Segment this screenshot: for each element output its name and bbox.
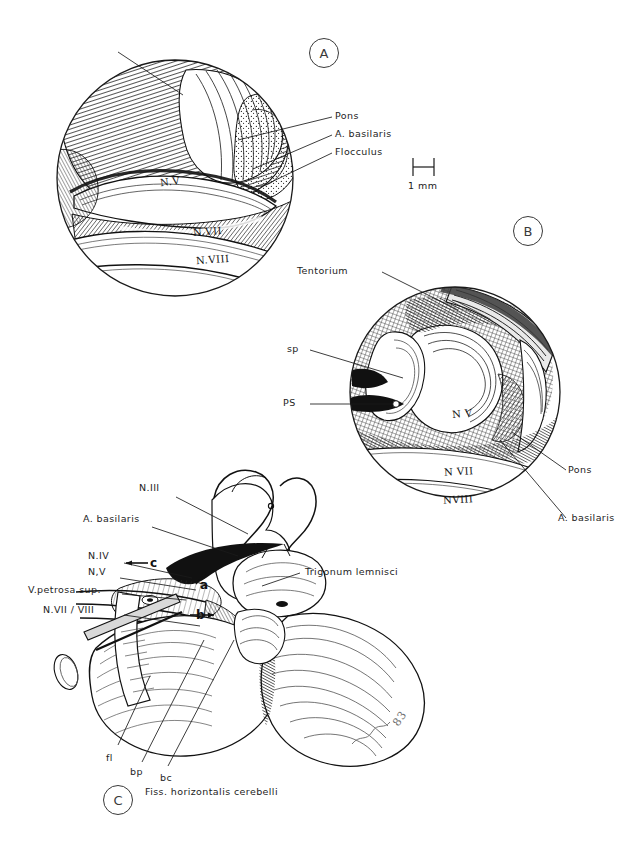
label-n3-c: N.III bbox=[139, 482, 160, 493]
panel-a-drawing bbox=[55, 58, 302, 334]
label-n4-c: N.IV bbox=[88, 550, 109, 561]
label-n8-b: NVIII bbox=[443, 493, 474, 506]
label-bc-c: bc bbox=[160, 772, 172, 783]
label-flocculus-a: Flocculus bbox=[335, 146, 383, 157]
label-a-basilaris-c: A. basilaris bbox=[83, 513, 140, 524]
label-n7-a: N.VII bbox=[193, 225, 223, 238]
arrow-label-a: a bbox=[200, 578, 209, 592]
arrow-label-b: b bbox=[196, 608, 205, 622]
label-bp-c: bp bbox=[130, 766, 143, 777]
label-tentorium-b: Tentorium bbox=[297, 265, 348, 276]
panel-b-drawing bbox=[348, 284, 566, 528]
panel-marker-c: C bbox=[103, 785, 133, 815]
label-fiss-horizontalis-cerebelli: Fiss. horizontalis cerebelli bbox=[145, 786, 278, 797]
label-trigonum-lemnisci: Trigonum lemnisci bbox=[305, 566, 398, 577]
label-n5-c: N,V bbox=[88, 566, 106, 577]
label-n5-b: N V bbox=[451, 407, 473, 420]
label-v-petrosa-sup-c: V.petrosa sup. bbox=[28, 584, 101, 595]
label-sp-b: sp bbox=[287, 343, 299, 354]
scale-bar bbox=[413, 158, 434, 176]
label-n7-b: N VII bbox=[444, 465, 474, 478]
label-n8-a: N.VIII bbox=[196, 253, 230, 266]
arrow-label-c: c bbox=[150, 556, 158, 570]
label-fl-c: fl bbox=[106, 752, 113, 763]
panel-marker-b: B bbox=[513, 216, 543, 246]
anatomical-figure bbox=[0, 0, 623, 846]
label-pons-b: Pons bbox=[568, 464, 592, 475]
label-pons-a: Pons bbox=[335, 110, 359, 121]
label-a-basilaris-a: A. basilaris bbox=[335, 128, 392, 139]
scale-bar-caption: 1 mm bbox=[408, 180, 438, 191]
label-a-basilaris-b: A. basilaris bbox=[558, 512, 615, 523]
label-n7-n8-c: N.VII / VIII bbox=[43, 604, 94, 615]
label-ps-b: PS bbox=[283, 397, 296, 408]
illustration-canvas bbox=[0, 0, 623, 846]
panel-marker-a: A bbox=[309, 38, 339, 68]
